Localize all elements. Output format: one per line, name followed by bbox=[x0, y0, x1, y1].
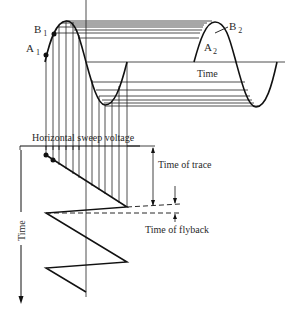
flyback-arrow-down bbox=[173, 198, 177, 204]
label-time-of-flyback: Time of flyback bbox=[145, 224, 209, 235]
label-a1: A1 bbox=[26, 42, 40, 57]
label-time-horizontal: Time bbox=[197, 68, 218, 79]
label-horizontal-sweep-voltage: Horizontal sweep voltage bbox=[32, 132, 135, 143]
sine-wave-right bbox=[194, 22, 277, 107]
label-b1: B1 bbox=[34, 23, 47, 38]
sweep-ticks bbox=[20, 146, 79, 150]
label-time-of-trace: Time of trace bbox=[158, 159, 212, 170]
label-a2: A2 bbox=[204, 41, 217, 56]
sweep-point-a1 bbox=[44, 153, 49, 158]
label-b2: B2 bbox=[229, 20, 242, 35]
flyback-arrow-up bbox=[173, 214, 177, 219]
oscilloscope-sweep-diagram: B1 A1 B2 A2 Time Horizontal sweep voltag… bbox=[0, 0, 294, 313]
sweep-point-b1 bbox=[51, 158, 56, 163]
trace-arrow-up bbox=[151, 147, 155, 153]
projection-lines-vertical bbox=[46, 0, 127, 297]
sawtooth-sweep bbox=[46, 155, 127, 292]
point-a1 bbox=[44, 53, 49, 58]
point-b1 bbox=[52, 32, 57, 37]
time-arrow-down-icon bbox=[19, 296, 24, 304]
label-time-vertical: Time bbox=[16, 220, 27, 241]
projection-lines-horizontal bbox=[55, 21, 285, 106]
